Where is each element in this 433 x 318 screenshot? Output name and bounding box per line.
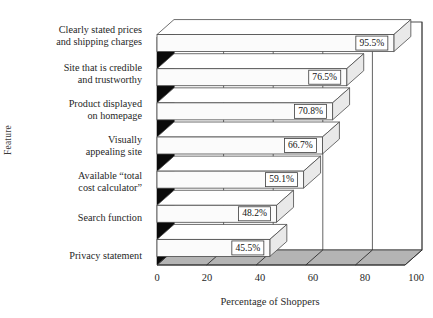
plot-area: 95.5%76.5%70.8%66.7%59.1%48.2%45.5% (0, 0, 433, 318)
data-label: 66.7% (284, 139, 316, 153)
data-label-text: 59.1% (269, 173, 294, 184)
data-label: 59.1% (266, 173, 298, 187)
data-label-text: 45.5% (235, 242, 260, 253)
bar-top-face (157, 88, 350, 103)
data-label: 95.5% (356, 36, 388, 50)
data-label: 76.5% (309, 70, 341, 84)
bar-top-face (157, 20, 411, 35)
data-label-text: 76.5% (312, 71, 337, 82)
bar-chart: Feature Clearly stated prices and shippi… (0, 0, 433, 318)
bar-top-face (157, 156, 321, 171)
bar (157, 224, 287, 256)
data-label: 48.2% (239, 207, 271, 221)
data-label: 45.5% (232, 241, 264, 255)
data-label: 70.8% (295, 104, 327, 118)
bar-top-face (157, 122, 339, 137)
data-label-text: 66.7% (288, 139, 313, 150)
bar (157, 190, 294, 222)
bar-top-face (157, 54, 364, 69)
bar-top-face (157, 224, 287, 239)
data-label-text: 95.5% (359, 37, 384, 48)
data-label-text: 48.2% (242, 207, 267, 218)
data-label-text: 70.8% (298, 105, 323, 116)
bar-top-face (157, 190, 294, 205)
